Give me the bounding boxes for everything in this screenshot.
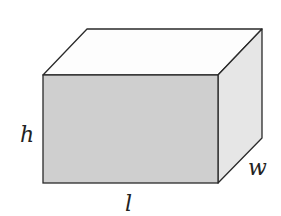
front-face [43, 75, 218, 183]
box-diagram: h l w [0, 0, 281, 216]
length-label: l [125, 191, 132, 216]
width-label: w [248, 155, 267, 180]
height-label: h [20, 122, 34, 147]
